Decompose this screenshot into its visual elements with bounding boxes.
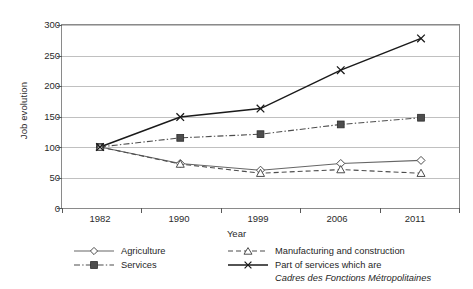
- legend-item-services[interactable]: Services: [72, 258, 222, 271]
- data-point-marker: [177, 134, 184, 141]
- plot-frame: [62, 25, 460, 209]
- data-point-marker: [417, 156, 425, 164]
- legend-label-agriculture: Agriculture: [121, 246, 165, 256]
- legend-label-italic-continuation: Cadres des Fonctions Métropolitaines: [275, 272, 471, 285]
- legend-item-part-of-services[interactable]: Part of services which are: [226, 258, 471, 271]
- grid-lines: [62, 26, 459, 179]
- chart-container: Job evolution 300 250 200 150 100 50 0 1…: [0, 0, 473, 289]
- data-point-marker: [417, 35, 425, 43]
- open-diamond-marker-icon: [72, 245, 116, 257]
- data-point-marker: [337, 121, 344, 128]
- legend-column-left: Agriculture Services: [72, 244, 222, 272]
- legend-column-right: Manufacturing and construction Part of s…: [226, 244, 471, 285]
- legend-label-manufacturing: Manufacturing and construction: [275, 246, 405, 256]
- chart-legend: Agriculture Services Manufacturing and c…: [64, 244, 464, 288]
- series-lines: [100, 38, 421, 173]
- data-point-marker: [257, 131, 264, 138]
- cross-x-marker-icon: [226, 259, 270, 271]
- legend-item-agriculture[interactable]: Agriculture: [72, 244, 222, 257]
- open-triangle-marker-icon: [226, 245, 270, 257]
- data-point-marker: [337, 66, 345, 74]
- legend-label-part-of-services: Part of services which are: [275, 260, 381, 270]
- legend-label-services: Services: [121, 260, 157, 270]
- legend-item-manufacturing[interactable]: Manufacturing and construction: [226, 244, 471, 257]
- filled-square-marker-icon: [72, 259, 116, 271]
- data-point-marker: [418, 114, 425, 121]
